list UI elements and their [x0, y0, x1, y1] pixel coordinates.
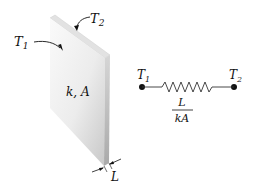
resistor-icon	[142, 82, 234, 92]
thickness-label: L	[110, 170, 119, 184]
slab-side-face	[104, 55, 110, 166]
t2-slab-annotation: T2	[74, 11, 105, 31]
t1-node-label: T1	[137, 68, 150, 84]
t2-arrow-icon	[77, 17, 90, 27]
resistance-denominator: kA	[175, 112, 190, 125]
t2-slab-label: T2	[90, 11, 105, 28]
t2-node-label: T2	[229, 68, 242, 84]
resistance-numerator: L	[177, 96, 185, 109]
thermal-resistance-diagram: T2 T1 k, A L T1 T2 L kA	[0, 0, 257, 188]
thermal-circuit: T1 T2 L kA	[137, 68, 242, 125]
conductivity-area-label: k, A	[66, 85, 90, 99]
t1-slab-label: T1	[14, 34, 28, 51]
